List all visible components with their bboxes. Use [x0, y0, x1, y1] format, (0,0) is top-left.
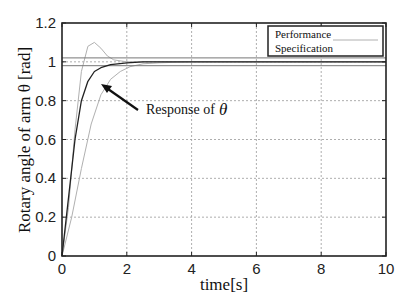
- y-tick-label: 0.6: [35, 131, 56, 148]
- y-tick-label: 0.2: [35, 208, 56, 225]
- annotation-theta: θ: [219, 100, 227, 119]
- chart: 0246810 00.20.40.60.811.2 time[s] Rotary…: [0, 0, 412, 299]
- x-tick-label: 0: [58, 260, 66, 277]
- annotation: Response of θ: [101, 84, 227, 119]
- legend: Performance Specification: [268, 26, 383, 56]
- annotation-text: Response of: [146, 102, 215, 117]
- y-axis-label: Rotary angle of arm θ [rad]: [15, 47, 34, 233]
- x-tick-label: 10: [378, 260, 395, 277]
- series-line: [62, 42, 386, 256]
- series-lines: [62, 42, 386, 256]
- legend-entry-performance: Performance: [275, 28, 331, 40]
- y-tick-labels: 00.20.40.60.811.2: [35, 14, 56, 264]
- y-tick-label: 1: [48, 53, 56, 70]
- x-axis-label: time[s]: [200, 275, 248, 294]
- annotation-arrow-shaft: [108, 89, 138, 110]
- y-tick-label: 1.2: [35, 14, 56, 31]
- x-tick-label: 6: [252, 260, 260, 277]
- y-tick-label: 0.8: [35, 92, 56, 109]
- x-tick-label: 4: [187, 260, 195, 277]
- x-tick-label: 8: [317, 260, 325, 277]
- y-tick-label: 0: [48, 247, 56, 264]
- legend-entry-specification: Specification: [275, 42, 334, 54]
- x-tick-label: 2: [123, 260, 131, 277]
- y-tick-label: 0.4: [35, 169, 56, 186]
